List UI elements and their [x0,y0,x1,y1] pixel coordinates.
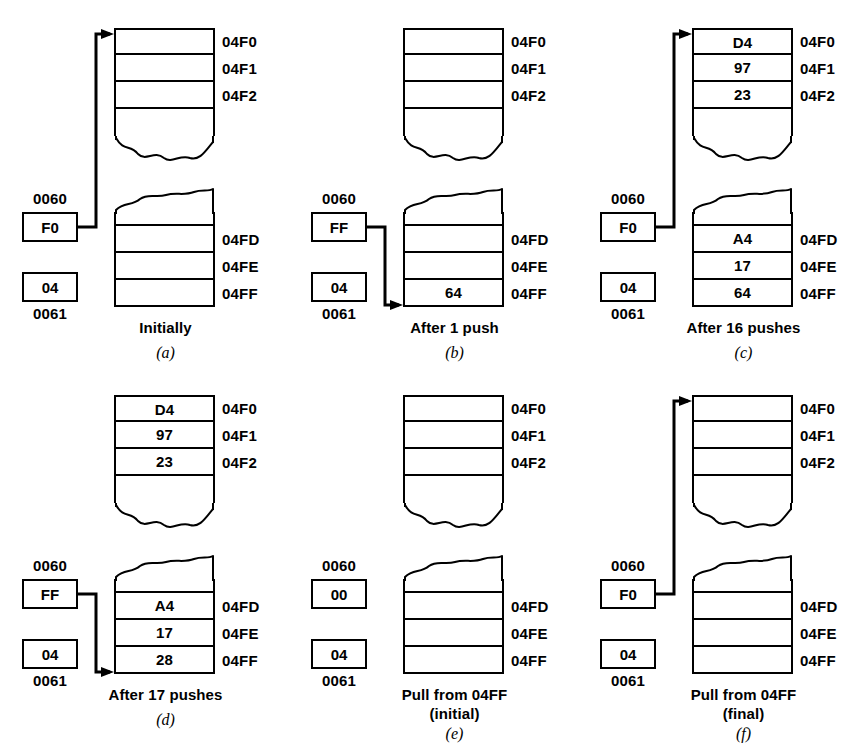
memory-cell [114,55,215,82]
memory-cell: 17 [692,253,793,280]
register-address-high: 0060 [22,557,78,574]
bottom-stack-block [692,579,793,674]
torn-edge-top-block [692,503,793,529]
memory-cell [692,647,793,674]
address-label: 04FE [511,625,548,642]
address-label: 04FF [222,652,258,669]
torn-edge-top-block [114,503,215,529]
memory-cell [403,253,504,280]
panel-caption-line1: After 16 pushes [686,319,800,336]
memory-cell [403,476,504,503]
register-address-low: 0061 [22,305,78,322]
panel-caption-line1: After 17 pushes [108,686,222,703]
memory-cell [403,620,504,647]
memory-cell [692,476,793,503]
register-address-high: 0060 [600,557,656,574]
memory-cell [692,593,793,620]
memory-cell [403,422,504,449]
memory-cell: A4 [692,226,793,253]
panel-caption: Initially [78,318,253,337]
stack-pointer-low-byte: 04 [311,272,367,302]
top-stack-block [403,28,504,136]
register-address-high: 0060 [311,557,367,574]
memory-cell: D4 [114,395,215,422]
memory-cell [692,212,793,226]
memory-cell: 97 [692,55,793,82]
panel-c: D4972304F004F104F2A4176404FD04FE04FF0060… [578,0,867,367]
panel-e: 04F004F104F204FD04FE04FF006000040061Pull… [289,367,578,734]
memory-cell [403,28,504,55]
address-label: 04FF [800,652,836,669]
panel-letter: (b) [367,344,542,362]
memory-cell: 97 [114,422,215,449]
stack-pointer-low-byte: 04 [600,272,656,302]
top-stack-block: D49723 [692,28,793,136]
panel-caption-line1: Pull from 04FF [402,686,508,703]
address-label: 04FE [222,625,259,642]
memory-cell [114,226,215,253]
memory-cell [692,449,793,476]
memory-cell: 23 [692,82,793,109]
address-label: 04FD [511,598,548,615]
register-address-low: 0061 [600,672,656,689]
stack-pointer-high-byte: F0 [22,212,78,242]
address-label: 04FE [222,258,259,275]
memory-cell: A4 [114,593,215,620]
panel-caption-line1: After 1 push [410,319,499,336]
register-address-low: 0061 [600,305,656,322]
address-label: 04F0 [511,400,546,417]
address-label: 04F0 [800,400,835,417]
torn-edge-bottom-block [692,555,793,581]
panel-letter: (d) [78,711,253,729]
address-label: 04F1 [511,427,546,444]
top-stack-block [403,395,504,503]
torn-edge-bottom-block [403,555,504,581]
address-label: 04FD [222,231,259,248]
torn-edge-bottom-block [692,188,793,214]
memory-cell [114,109,215,136]
panel-caption: Pull from 04FF(final) [656,685,831,723]
memory-cell [114,579,215,593]
torn-edge-top-block [403,136,504,162]
memory-cell: 23 [114,449,215,476]
memory-cell [114,212,215,226]
panel-a: 04F004F104F204FD04FE04FF0060F0040061Init… [0,0,289,367]
panel-caption-line1: Pull from 04FF [691,686,797,703]
torn-edge-top-block [114,136,215,162]
address-label: 04F1 [222,427,257,444]
bottom-stack-block [114,212,215,307]
memory-cell [403,212,504,226]
top-stack-block: D49723 [114,395,215,503]
stack-pointer-low-byte: 04 [22,272,78,302]
memory-cell [692,109,793,136]
memory-cell [403,226,504,253]
address-label: 04FD [800,598,837,615]
stack-pointer-high-byte: F0 [600,579,656,609]
register-address-low: 0061 [311,305,367,322]
register-address-high: 0060 [311,190,367,207]
memory-cell [692,422,793,449]
top-stack-block [692,395,793,503]
panel-caption-line2: (final) [723,705,765,722]
stack-pointer-high-byte: F0 [600,212,656,242]
address-label: 04F0 [222,33,257,50]
address-label: 04FF [222,285,258,302]
memory-cell [403,647,504,674]
bottom-stack-block: A41728 [114,579,215,674]
memory-cell: 28 [114,647,215,674]
address-label: 04F2 [222,87,257,104]
memory-cell [403,579,504,593]
memory-cell [403,82,504,109]
torn-edge-bottom-block [114,188,215,214]
bottom-stack-block: 64 [403,212,504,307]
panel-letter: (f) [656,725,831,743]
stack-pointer-low-byte: 04 [22,639,78,669]
address-label: 04F2 [511,87,546,104]
memory-cell [114,28,215,55]
torn-edge-bottom-block [403,188,504,214]
panel-caption: After 16 pushes [656,318,831,337]
register-address-low: 0061 [311,672,367,689]
address-label: 04F2 [800,454,835,471]
memory-cell [692,579,793,593]
address-label: 04F0 [800,33,835,50]
